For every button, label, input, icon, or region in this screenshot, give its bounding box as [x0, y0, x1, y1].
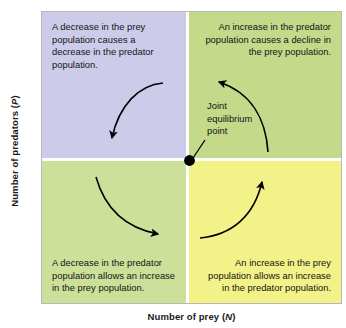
plot-area: A decrease in the prey population causes… [42, 12, 341, 303]
x-axis-label-text: Number of prey ( [148, 311, 226, 322]
quadrant-bottom-right: An increase in the prey population allow… [189, 161, 341, 303]
y-axis-label: Number of predators (P) [8, 5, 22, 297]
quadrant-top-left-text: A decrease in the prey population causes… [52, 21, 176, 71]
y-axis-label-text: Number of predators ( [9, 105, 20, 207]
quadrant-top-left: A decrease in the prey population causes… [42, 12, 186, 158]
quadrant-bottom-right-text: An increase in the prey population allow… [199, 257, 331, 295]
x-axis-label-text-end: ) [232, 311, 235, 322]
quadrant-bottom-left-text: A decrease in the predator population al… [52, 257, 176, 295]
equilibrium-point-label: Joint equilibrium point [207, 100, 252, 138]
quadrant-top-right-text: An increase in the predator population c… [199, 21, 331, 59]
x-axis-label: Number of prey (N) [42, 311, 341, 322]
y-axis-variable: P [9, 98, 20, 104]
predator-prey-cycle-figure: Number of predators (P) Number of prey (… [0, 0, 346, 328]
quadrant-bottom-left: A decrease in the predator population al… [42, 161, 186, 303]
y-axis-label-text-end: ) [9, 95, 20, 98]
